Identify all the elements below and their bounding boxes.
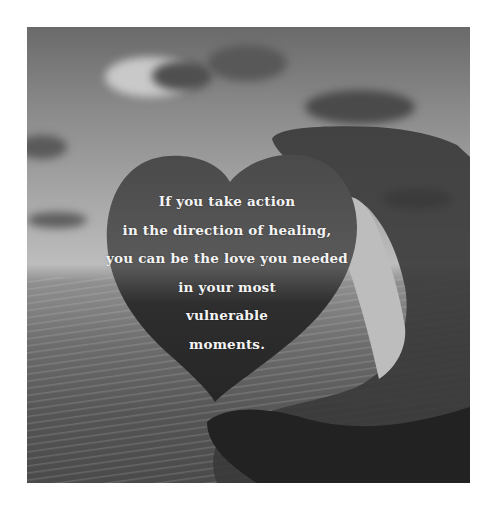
quote-line-6: moments. [97, 330, 357, 359]
photo-frame: If you take action in the direction of h… [27, 27, 470, 483]
quote-line-1: If you take action [97, 187, 357, 216]
quote-text: If you take action in the direction of h… [97, 187, 357, 359]
quote-line-2: in the direction of healing, [97, 216, 357, 245]
quote-line-5: vulnerable [97, 301, 357, 330]
quote-line-4: in your most [97, 273, 357, 302]
quote-line-3: you can be the love you needed [97, 244, 357, 273]
